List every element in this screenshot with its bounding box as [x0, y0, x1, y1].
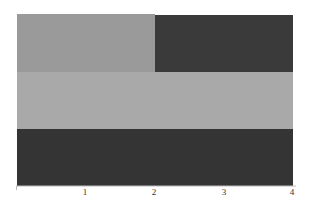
x-tick-label-4: 4: [290, 187, 295, 197]
x-tick-label-3: 3: [222, 187, 227, 197]
bar-row-1-segment-2: [155, 15, 293, 72]
block-chart: 1 2 3 4: [0, 0, 312, 204]
plot-area: [17, 14, 293, 186]
x-axis: 1 2 3 4: [16, 186, 296, 197]
x-tick-label-1: 1: [83, 187, 88, 197]
bar-row-1-segment-1: [17, 14, 155, 72]
x-tick-label-2: 2: [152, 187, 157, 197]
bar-row-3: [17, 129, 293, 186]
bar-row-2: [17, 72, 293, 129]
